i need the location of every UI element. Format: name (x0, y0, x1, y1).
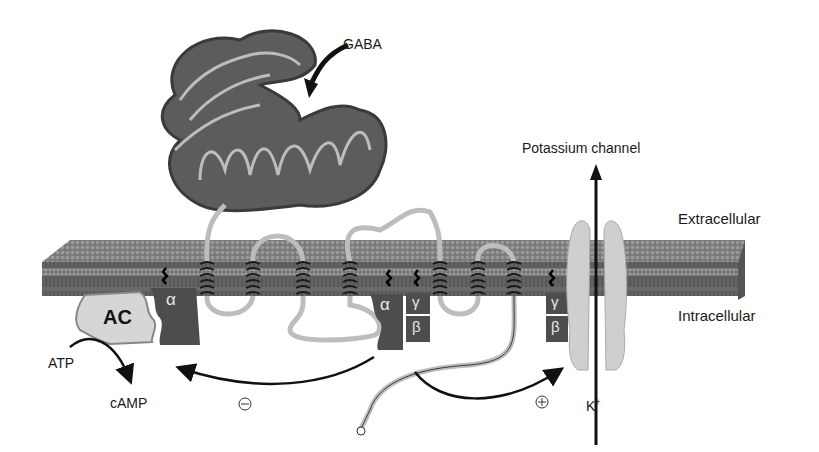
extracellular-label: Extracellular (678, 210, 761, 227)
ion-symbol: K (586, 398, 595, 414)
gabab-signaling-diagram: GABA Potassium channel Extracellular Int… (0, 0, 819, 452)
receptor-extracellular-domain (162, 31, 386, 211)
inhibition-arrow (180, 357, 374, 384)
camp-label: cAMP (110, 395, 147, 411)
atp-label: ATP (48, 355, 74, 371)
beta-center-label: β (412, 318, 421, 335)
potassium-channel-label: Potassium channel (522, 140, 640, 156)
gaba-label: GABA (343, 36, 382, 52)
beta-right-label: β (551, 318, 560, 335)
gamma-right-label: γ (551, 293, 559, 310)
activation-arrow (415, 370, 560, 398)
c-terminus (357, 427, 365, 435)
alpha-left-label: α (166, 290, 176, 310)
alpha-center-label: α (380, 295, 390, 315)
adenylyl-cyclase-label: AC (103, 306, 132, 329)
potassium-ion-label: K+ (586, 397, 601, 414)
ion-charge: + (595, 397, 600, 407)
cell-membrane (42, 240, 745, 300)
atp-camp-arrow (70, 339, 130, 380)
gamma-center-label: γ (412, 293, 420, 310)
intracellular-label: Intracellular (678, 307, 756, 324)
